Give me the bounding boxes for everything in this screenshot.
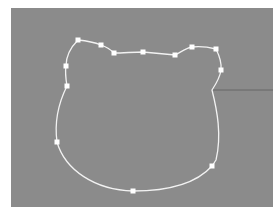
control-point-handle[interactable] — [65, 84, 70, 89]
cat-head-outline-path[interactable] — [56, 40, 221, 191]
control-point-handle[interactable] — [210, 164, 215, 169]
control-point-handle[interactable] — [55, 140, 60, 145]
control-point-handle[interactable] — [219, 68, 224, 73]
control-points — [55, 38, 224, 194]
control-point-handle[interactable] — [173, 53, 178, 58]
control-point-handle[interactable] — [131, 189, 136, 194]
control-point-handle[interactable] — [99, 43, 104, 48]
path-overlay — [0, 0, 279, 212]
control-point-handle[interactable] — [214, 47, 219, 52]
control-point-handle[interactable] — [112, 51, 117, 56]
control-point-handle[interactable] — [141, 50, 146, 55]
control-point-handle[interactable] — [64, 64, 69, 69]
control-point-handle[interactable] — [76, 38, 81, 43]
control-point-handle[interactable] — [190, 45, 195, 50]
